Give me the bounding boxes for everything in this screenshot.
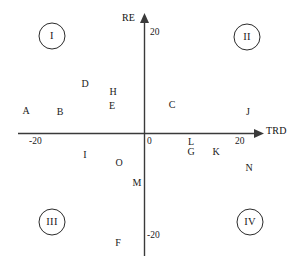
y-axis-tick-minus20: -20 <box>147 231 160 241</box>
data-point-label: I <box>83 150 86 160</box>
data-point-label: M <box>133 178 142 188</box>
quadrant-marker-iii: III <box>39 209 66 236</box>
x-axis-title: TRD <box>266 126 287 136</box>
data-point-label: C <box>169 100 176 110</box>
quadrant-marker-ii: II <box>234 24 261 51</box>
quadrant-marker-ii-label: II <box>243 32 251 43</box>
data-point-label: O <box>115 158 122 168</box>
x-axis-tick-origin: 0 <box>147 137 152 147</box>
data-point-label: N <box>245 163 252 173</box>
x-axis-tick-minus20: -20 <box>29 137 42 147</box>
data-point-label: F <box>115 238 121 248</box>
quadrant-marker-iii-label: III <box>46 217 57 228</box>
x-axis-arrowhead <box>254 129 264 138</box>
quadrant-marker-iv-label: IV <box>244 217 256 228</box>
data-point-label: H <box>109 87 116 97</box>
y-axis-title: RE <box>122 13 135 23</box>
data-point-label: G <box>187 147 194 157</box>
plot-area: RE TRD 20 -20 0 20 -20 I II III IV A B D… <box>0 0 302 266</box>
quadrant-marker-iv: IV <box>237 209 264 236</box>
quadrant-marker-i: I <box>39 23 66 50</box>
y-axis-tick-20: 20 <box>150 28 160 38</box>
data-point-label: E <box>109 101 115 111</box>
quadrant-scatter-figure: RE TRD 20 -20 0 20 -20 I II III IV A B D… <box>0 0 302 266</box>
data-point-label: D <box>81 79 88 89</box>
data-point-label: J <box>246 107 250 117</box>
data-point-label: B <box>57 107 64 117</box>
x-axis-tick-20: 20 <box>235 137 245 147</box>
y-axis-arrowhead <box>140 13 149 23</box>
quadrant-marker-i-label: I <box>50 31 54 42</box>
data-point-label: K <box>212 147 219 157</box>
data-point-label: A <box>22 106 29 116</box>
